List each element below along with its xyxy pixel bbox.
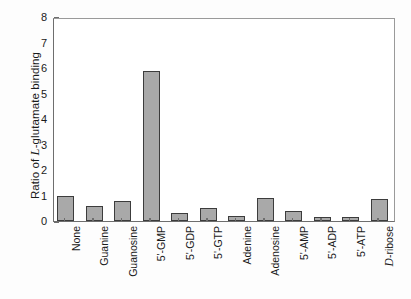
bar [257, 198, 274, 221]
x-tick-label-text: -ribose [383, 226, 395, 258]
x-tick-mark [377, 218, 378, 222]
y-tick-label: 3 [33, 139, 47, 151]
y-tick-label: 7 [33, 37, 47, 49]
y-tick-label: 0 [33, 215, 47, 227]
x-tick-mark [64, 218, 65, 222]
x-tick-label: 5'-GDP [184, 226, 198, 260]
y-tick-label: 5 [33, 88, 47, 100]
x-tick-label-text: 5'-GTP [212, 226, 224, 259]
x-tick-label-text: Adenosine [269, 226, 281, 276]
x-tick-label: Adenosine [269, 226, 283, 276]
x-tick-label-italic: D [383, 258, 395, 266]
bar [228, 216, 245, 221]
bar [114, 201, 131, 221]
x-tick-label-text: 5'-AMP [298, 226, 310, 260]
x-tick-label-text: Adenine [241, 226, 253, 265]
x-tick-mark [349, 218, 350, 222]
bar [171, 213, 188, 221]
y-tick-label: 4 [33, 113, 47, 125]
x-tick-label-text: 5'-ATP [355, 226, 367, 257]
x-tick-mark [235, 218, 236, 222]
bar [200, 208, 217, 221]
x-tick-label-text: Guanosine [127, 226, 139, 277]
x-tick-mark [263, 218, 264, 222]
x-tick-label: 5'-AMP [298, 226, 312, 260]
x-tick-mark [149, 218, 150, 222]
x-tick-label: Guanine [98, 226, 112, 266]
x-tick-label-text: 5'-GDP [184, 226, 196, 260]
bar [314, 217, 331, 221]
x-tick-label: 5'-GMP [155, 226, 169, 261]
x-tick-mark [206, 218, 207, 222]
bar [57, 196, 74, 222]
bar [86, 206, 103, 221]
x-tick-label: Guanosine [127, 226, 141, 277]
x-tick-label: 5'-ATP [355, 226, 369, 257]
x-tick-mark [320, 218, 321, 222]
y-tick-label: 2 [33, 164, 47, 176]
bar [342, 217, 359, 221]
y-tick-label: 1 [33, 190, 47, 202]
x-tick-mark [292, 218, 293, 222]
y-tick-label: 6 [33, 62, 47, 74]
x-tick-label-text: Guanine [98, 226, 110, 266]
bar [371, 199, 388, 221]
y-tick-label: 8 [33, 11, 47, 23]
x-tick-mark [178, 218, 179, 222]
x-tick-label: Adenine [241, 226, 255, 265]
x-tick-label: 5'-GTP [212, 226, 226, 259]
bar [143, 71, 160, 221]
bar-chart-figure: Ratio of L-glutamate binding 012345678 N… [0, 0, 411, 299]
x-tick-mark [121, 218, 122, 222]
x-tick-label-text: 5'-GMP [155, 226, 167, 261]
x-tick-mark [92, 218, 93, 222]
x-tick-label: None [70, 226, 84, 251]
plot-area [53, 18, 395, 222]
x-tick-label: 5'-ADP [326, 226, 340, 259]
x-tick-label-text: 5'-ADP [326, 226, 338, 259]
x-tick-label: D-ribose [383, 226, 397, 266]
x-tick-label-text: None [70, 226, 82, 251]
bar [285, 211, 302, 221]
